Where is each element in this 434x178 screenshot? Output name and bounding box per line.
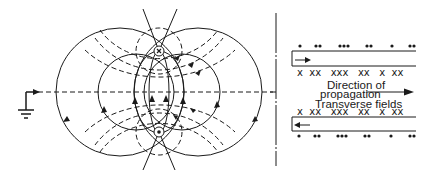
radial-lines-lower [143,132,175,170]
bottom-strip [292,117,416,138]
bottom-cross-row: x xx xxx xx x xx [297,107,403,117]
radial-lines-upper [143,9,177,51]
ground-icon [18,89,40,118]
field-direction-arrows [63,55,258,122]
field-lines-panel [18,9,276,170]
lower-conductor-dot [157,130,161,134]
top-dots [298,44,415,47]
top-strip [292,44,416,66]
top-cross-row: x xx xxx xx x xx [297,68,403,78]
bottom-dots [297,134,415,137]
